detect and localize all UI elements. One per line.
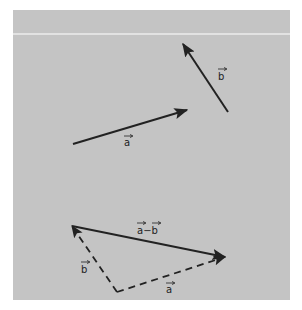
svg-text:a−b: a−b [137,225,158,236]
vector-a-minus-b-label: a−b [137,222,161,237]
svg-text:b: b [81,264,87,275]
dashed-vector-b-label: b [81,261,90,276]
vector-a-label: a [124,135,133,149]
vector-b-label: b [218,68,227,83]
svg-text:a: a [166,284,172,295]
svg-text:a: a [124,137,130,148]
dashed-vector-b [72,226,117,292]
dashed-vector-a-label: a [166,282,175,296]
vector-diagram: a b a−b b a [0,0,302,310]
svg-text:b: b [218,71,224,82]
